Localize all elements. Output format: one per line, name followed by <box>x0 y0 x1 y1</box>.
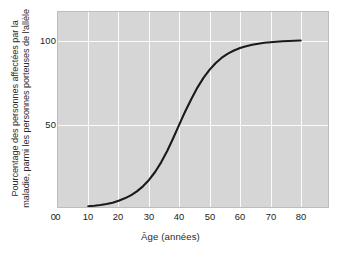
x-tick-label: 0 <box>43 211 73 222</box>
x-axis-ticks: 0 10 20 30 40 50 60 70 80 <box>0 211 341 225</box>
x-tick-label: 70 <box>256 211 286 222</box>
x-tick-label: 20 <box>103 211 133 222</box>
x-tick-label: 10 <box>73 211 103 222</box>
x-tick-label: 60 <box>225 211 255 222</box>
data-series-curve <box>58 12 328 207</box>
y-tick-label: 100 <box>10 35 56 46</box>
x-tick-label: 50 <box>195 211 225 222</box>
y-tick-label: 50 <box>10 119 56 130</box>
x-tick-label: 40 <box>164 211 194 222</box>
plot-area <box>57 11 329 208</box>
x-axis-label: Âge (années) <box>0 231 341 242</box>
x-tick-label: 80 <box>286 211 316 222</box>
x-tick-label: 30 <box>134 211 164 222</box>
chart-figure: Pourcentage des personnes affectées par … <box>0 0 341 254</box>
